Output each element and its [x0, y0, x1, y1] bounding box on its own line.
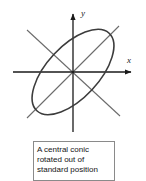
figure-container: x y A central conic rotated out of stand… — [0, 0, 146, 181]
y-axis-label: y — [80, 8, 85, 18]
caption-line-1: A central conic — [37, 145, 114, 155]
x-axis-label: x — [126, 55, 131, 65]
caption-line-3: standard position — [37, 165, 114, 175]
caption-box: A central conic rotated out of standard … — [33, 141, 115, 181]
caption-line-2: rotated out of — [37, 155, 114, 165]
